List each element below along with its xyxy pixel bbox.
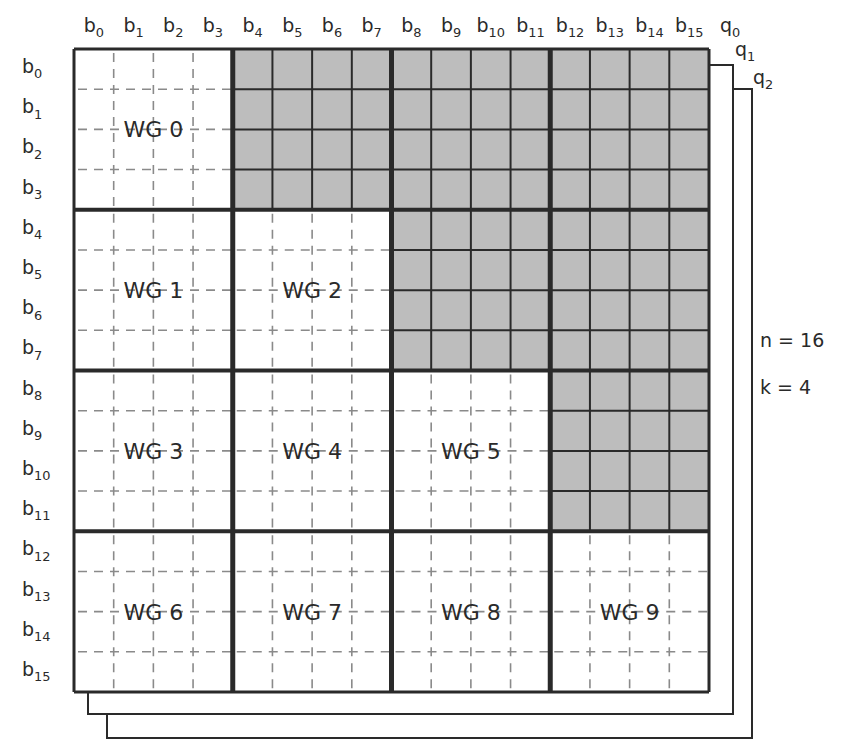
row-label: b1 [22, 95, 42, 121]
layer-label-q2: q2 [753, 66, 773, 92]
column-label: b5 [282, 14, 302, 40]
shaded-block [550, 210, 709, 371]
workgroup-matrix-diagram: WG 0WG 1WG 2WG 3WG 4WG 5WG 6WG 7WG 8WG 9… [0, 0, 845, 754]
n-parameter-label: n = 16 [760, 329, 824, 351]
column-label: b1 [123, 14, 143, 40]
workgroup-label: WG 5 [441, 439, 501, 464]
column-label: b14 [635, 14, 664, 40]
row-label: b12 [22, 537, 51, 563]
matrix-grid: WG 0WG 1WG 2WG 3WG 4WG 5WG 6WG 7WG 8WG 9 [74, 49, 709, 692]
layer-label-q0: q0 [720, 14, 740, 40]
workgroup-label: WG 9 [600, 600, 660, 625]
row-label: b3 [22, 176, 42, 202]
shaded-block [550, 371, 709, 532]
shaded-block [550, 49, 709, 210]
row-label: b4 [22, 216, 42, 242]
workgroup-label: WG 2 [282, 278, 342, 303]
shaded-block [233, 49, 392, 210]
workgroup-label: WG 6 [123, 600, 183, 625]
k-parameter-label: k = 4 [760, 376, 811, 398]
column-label: b11 [516, 14, 545, 40]
row-label: b11 [22, 497, 51, 523]
column-label: b8 [401, 14, 421, 40]
column-label: b6 [322, 14, 342, 40]
row-label: b6 [22, 296, 42, 322]
row-label: b5 [22, 256, 42, 282]
row-label: b7 [22, 336, 42, 362]
workgroup-label: WG 1 [123, 278, 183, 303]
column-label: b4 [242, 14, 262, 40]
column-label: b2 [163, 14, 183, 40]
workgroup-label: WG 7 [282, 600, 342, 625]
row-label: b9 [22, 417, 42, 443]
workgroup-label: WG 8 [441, 600, 501, 625]
shaded-block [392, 49, 551, 210]
column-label: b0 [84, 14, 104, 40]
column-label: b10 [476, 14, 505, 40]
column-label: b12 [556, 14, 585, 40]
row-label: b8 [22, 377, 42, 403]
row-label: b13 [22, 578, 51, 604]
column-label: b7 [362, 14, 382, 40]
column-label: b9 [441, 14, 461, 40]
workgroup-label: WG 4 [282, 439, 342, 464]
row-label: b10 [22, 457, 51, 483]
row-label: b2 [22, 135, 42, 161]
column-label: b15 [675, 14, 704, 40]
workgroup-label: WG 0 [123, 117, 183, 142]
row-label: b0 [22, 55, 42, 81]
layer-label-q1: q1 [735, 38, 755, 64]
workgroup-label: WG 3 [123, 439, 183, 464]
column-label: b13 [596, 14, 625, 40]
row-label: b14 [22, 618, 51, 644]
shaded-block [392, 210, 551, 371]
row-label: b15 [22, 658, 51, 684]
column-label: b3 [203, 14, 223, 40]
